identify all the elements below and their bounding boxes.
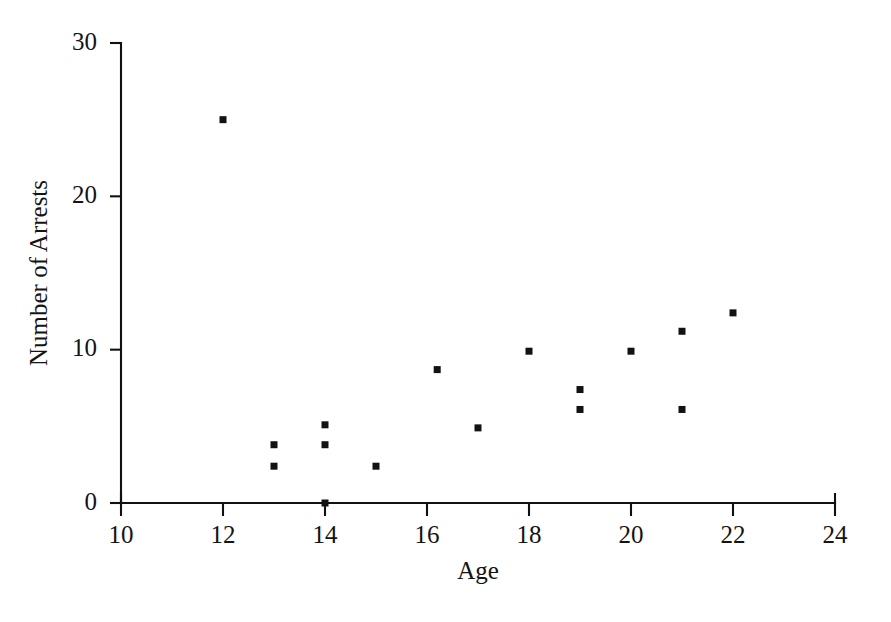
data-point xyxy=(577,406,584,413)
data-point xyxy=(373,463,380,470)
data-point xyxy=(271,463,278,470)
y-tick-label: 10 xyxy=(72,334,97,361)
x-tick-label: 16 xyxy=(415,521,440,548)
data-point xyxy=(475,424,482,431)
x-tick-label: 22 xyxy=(721,521,746,548)
x-tick-label: 24 xyxy=(823,521,849,548)
data-point xyxy=(526,348,533,355)
data-point xyxy=(577,386,584,393)
x-tick-label: 12 xyxy=(211,521,236,548)
x-tick-label: 18 xyxy=(517,521,542,548)
data-point xyxy=(730,309,737,316)
y-tick-label: 30 xyxy=(72,28,97,55)
data-point xyxy=(679,328,686,335)
data-point xyxy=(271,441,278,448)
plot-canvas: 0102030 1012141618202224 Age Number of A… xyxy=(0,0,891,622)
data-point xyxy=(322,421,329,428)
data-point xyxy=(434,366,441,373)
x-axis-title: Age xyxy=(457,557,499,584)
y-axis-ticks: 0102030 xyxy=(72,28,121,515)
axes-group xyxy=(121,43,835,503)
y-axis-title: Number of Arrests xyxy=(25,180,52,366)
data-point xyxy=(322,500,329,507)
y-tick-label: 20 xyxy=(72,181,97,208)
x-tick-label: 14 xyxy=(313,521,339,548)
x-axis-ticks: 1012141618202224 xyxy=(109,493,849,548)
x-tick-label: 20 xyxy=(619,521,644,548)
x-tick-label: 10 xyxy=(109,521,134,548)
data-point-series xyxy=(220,116,737,506)
data-point xyxy=(628,348,635,355)
data-point xyxy=(322,441,329,448)
scatter-plot-figure: 0102030 1012141618202224 Age Number of A… xyxy=(0,0,891,622)
data-point xyxy=(679,406,686,413)
data-point xyxy=(220,116,227,123)
y-tick-label: 0 xyxy=(85,488,98,515)
